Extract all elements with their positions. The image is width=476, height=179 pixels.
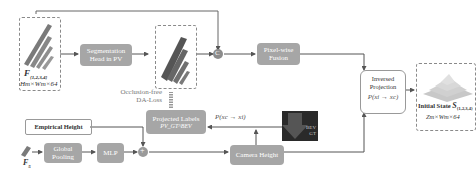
- initial-state-label: Initial State S{1,2,3,4}: [418, 101, 473, 111]
- projected-labels-box: Projected Labels PV_GT^BEV: [146, 110, 206, 134]
- features-label: F{1,2,3,4}: [24, 68, 47, 80]
- features-dims: Hm×Wm×64: [20, 80, 57, 88]
- inversed-projection-box: Inversed Projection P(xi → xc): [360, 70, 406, 114]
- segmentation-stack-icon: [157, 29, 197, 89]
- mlp-box: MLP: [97, 143, 124, 163]
- initial-state-dims: Zm×Wm×64: [426, 113, 460, 120]
- bev-volume-icon: [419, 68, 476, 102]
- loss-label: Occlusion-free DA-Loss: [110, 89, 162, 104]
- small-feature-label: F5: [23, 158, 31, 169]
- feature-stack-icon: [22, 20, 62, 72]
- add-symbol: +: [140, 146, 145, 155]
- concat-symbol: C: [215, 49, 220, 57]
- forward-projection-formula: P(xc → xi): [215, 113, 246, 121]
- global-pooling-box: Global Pooling: [44, 143, 82, 163]
- segmentation-map-panel: [155, 25, 197, 89]
- inversed-projection-title: Inversed Projection: [361, 75, 405, 91]
- pixel-fusion-box: Pixel-wise Fusion: [257, 43, 300, 65]
- segmentation-head-box: Segmentation Head in PV: [80, 44, 132, 66]
- initial-state-panel: [416, 63, 476, 131]
- small-feature-icon: [19, 145, 33, 157]
- empirical-height-box: Empirical Height: [25, 119, 92, 135]
- bev-gt-image: BEV GT: [282, 111, 318, 141]
- camera-height-box: Camera Height: [230, 145, 284, 165]
- inversed-projection-formula: P(xi → xc): [361, 93, 405, 101]
